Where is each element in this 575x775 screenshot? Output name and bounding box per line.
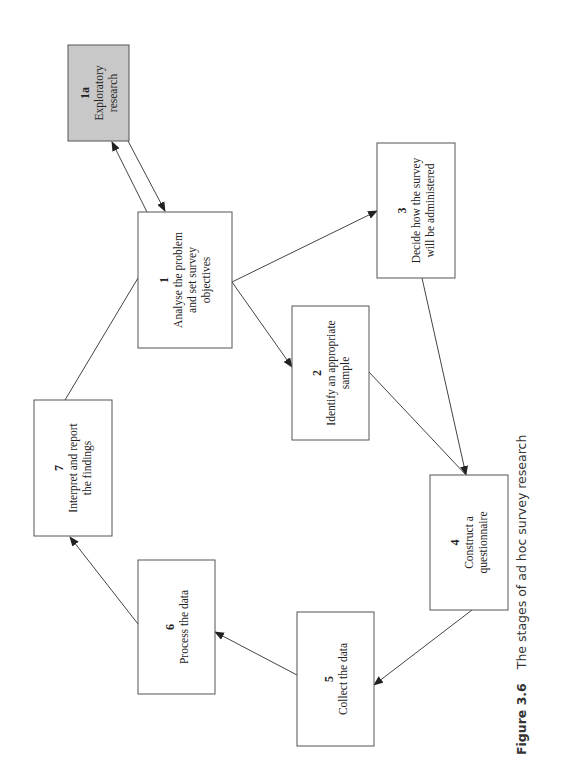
stage-text-line: Identify an appropriate — [325, 320, 338, 425]
stage-number: 1 — [157, 277, 171, 283]
stage-number: 5 — [322, 676, 336, 682]
stage-number: 1a — [78, 87, 92, 99]
stage-box-4: 4Construct aquestionnaire — [430, 475, 508, 610]
stage-number: 3 — [395, 208, 409, 214]
survey-stages-diagram: 1aExploratoryresearch1Analyse the proble… — [0, 0, 575, 775]
stage-box-6: 6Process the data — [138, 560, 215, 694]
svg-text:Figure 3.6 The stages of: Figure 3.6 The stages of ad hoc survey r… — [512, 435, 529, 755]
arrow-1a-to-1 — [128, 141, 165, 211]
arrow-5-to-6 — [215, 632, 297, 675]
stage-text-line: research — [107, 74, 119, 113]
stage-text-line: Collect the data — [337, 643, 349, 715]
stage-number: 6 — [163, 624, 177, 630]
stage-text-line: sample — [339, 357, 352, 390]
stage-text-line: Analyse the problem — [172, 232, 185, 328]
stage-box-3: 3Decide how the surveywill be administer… — [377, 143, 455, 278]
arrow-6-to-7 — [70, 537, 138, 624]
stage-number: 4 — [448, 540, 462, 546]
stage-text-line: the findings — [81, 440, 94, 495]
stage-number: 7 — [52, 465, 66, 471]
stage-box-1: 1Analyse the problemand set surveyobject… — [138, 212, 232, 348]
connector-2-to-4 — [369, 372, 466, 475]
stage-text-line: Construct a — [463, 516, 475, 569]
stage-box-layer: 1aExploratoryresearch1Analyse the proble… — [34, 45, 508, 746]
connector-7-to-1 — [65, 278, 138, 400]
arrow-4-to-5 — [374, 610, 472, 685]
stage-box-frame — [138, 560, 215, 694]
arrow-3-to-4 — [422, 278, 466, 475]
stage-number: 2 — [310, 370, 324, 376]
stage-text-line: Interpret and report — [67, 422, 80, 512]
stage-text-line: objectives — [200, 256, 213, 303]
stage-box-1a: 1aExploratoryresearch — [68, 45, 129, 141]
figure-caption: Figure 3.6 The stages of ad hoc survey r… — [512, 435, 529, 755]
stage-box-2: 2Identify an appropriatesample — [292, 306, 369, 440]
stage-text-line: will be administered — [424, 163, 436, 257]
stage-text-line: questionnaire — [477, 512, 490, 574]
stage-box-frame — [138, 212, 232, 348]
figure-label: Figure 3.6 — [514, 683, 529, 755]
arrow-1-to-2 — [232, 282, 292, 367]
stage-text-line: Decide how the survey — [410, 157, 423, 263]
stage-text-line: and set survey — [186, 247, 199, 313]
stage-text-line: Process the data — [178, 590, 190, 664]
stage-text-line: Exploratory — [93, 65, 106, 120]
stage-box-5: 5Collect the data — [297, 612, 374, 746]
arrow-1-to-3 — [232, 211, 377, 282]
stage-box-7: 7Interpret and reportthe findings — [34, 400, 112, 536]
figure-caption-text: The stages of ad hoc survey research — [514, 435, 529, 671]
arrow-1-to-1a — [112, 142, 147, 212]
stage-box-frame — [297, 612, 374, 746]
